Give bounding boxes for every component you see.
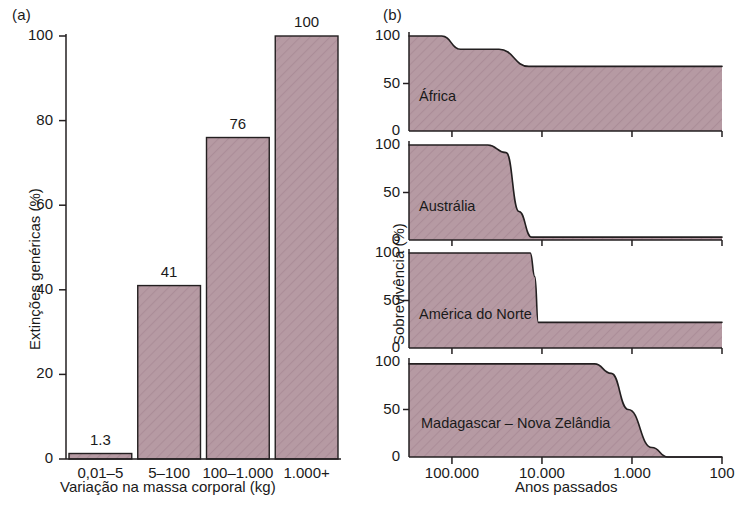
panel-a-y-tick-label: 20	[0, 364, 53, 381]
panel-a-bars-group	[69, 36, 338, 459]
panel-a-y-axis-title: Extinções genéricas (%)	[26, 188, 43, 350]
panel-b-region-label-3: América do Norte	[419, 306, 532, 322]
panel-b-y-tick-label: 0	[375, 447, 400, 464]
panel-b-y-tick-label: 50	[375, 291, 400, 308]
panel-b-y-tick-label: 100	[375, 135, 400, 152]
panel-b-area-3	[409, 253, 722, 348]
panel-b-y-tick-label: 50	[375, 400, 400, 417]
panel-b-y-tick-label: 50	[375, 74, 400, 91]
panel-a-bar-chart: Extinções genéricas (%) Variação na mass…	[0, 0, 375, 510]
panel-b-y-tick-label: 50	[375, 183, 400, 200]
panel-a-y-tick-label: 80	[0, 111, 53, 128]
panel-b-x-tick-label-4: 100	[662, 464, 750, 481]
panel-a-bar-value-4: 100	[247, 13, 367, 30]
panel-a-bar-value-1: 1.3	[40, 431, 160, 448]
panel-b-area-2	[409, 145, 722, 240]
panel-b-area-4	[409, 364, 722, 457]
panel-b-plot-svg	[375, 0, 750, 510]
bar-3	[207, 138, 270, 459]
panel-a-y-tick-label: 100	[0, 26, 53, 43]
bar-4	[275, 36, 338, 459]
bar-1	[69, 454, 132, 459]
panel-b-y-tick-label: 100	[375, 243, 400, 260]
panel-a-y-tick-label: 60	[0, 195, 53, 212]
panel-b-y-tick-label: 100	[375, 352, 400, 369]
panel-a-y-tick-label: 40	[0, 280, 53, 297]
panel-b-survivorship-chart: Sobrevivência (%) Anos passados 05010005…	[375, 0, 750, 510]
panel-b-region-label-4: Madagascar – Nova Zelândia	[421, 415, 610, 431]
panel-b-region-label-2: Austrália	[419, 198, 475, 214]
panel-b-y-tick-label: 100	[375, 26, 400, 43]
figure-root: (a) (b) Extinções genéricas (%) Variação…	[0, 0, 750, 510]
panel-a-bar-value-3: 76	[178, 115, 298, 132]
panel-a-category-label-4: 1.000+	[247, 464, 367, 481]
panel-b-area-1	[409, 36, 722, 131]
panel-b-region-label-1: África	[419, 88, 456, 104]
panel-a-bar-value-2: 41	[109, 263, 229, 280]
